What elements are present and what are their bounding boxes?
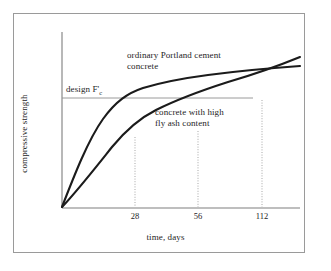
annotation-opc-line1: ordinary Portland cement [127, 50, 221, 61]
x-tick-label-112: 112 [247, 211, 277, 221]
chart-canvas [0, 0, 331, 271]
x-tick-label-28: 28 [120, 211, 150, 221]
design-strength-label: design F'c [66, 84, 102, 98]
annotation-flyash-curve: concrete with high fly ash content [155, 107, 224, 129]
design-strength-subscript: c [99, 89, 102, 96]
x-axis-title: time, days [0, 232, 331, 243]
design-strength-text: design F' [66, 84, 99, 94]
annotation-opc-line2: concrete [127, 61, 221, 72]
annotation-flyash-line1: concrete with high [155, 107, 224, 118]
figure-page: ordinary Portland cement concrete concre… [0, 0, 331, 271]
y-axis-title: compressive strength [19, 79, 30, 189]
x-tick-label-56: 56 [183, 211, 213, 221]
annotation-flyash-line2: fly ash content [155, 118, 224, 129]
annotation-opc-curve: ordinary Portland cement concrete [127, 50, 221, 72]
